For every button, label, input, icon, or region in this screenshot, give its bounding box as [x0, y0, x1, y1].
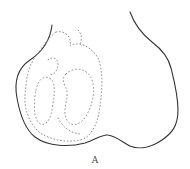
stipple-top-right — [78, 30, 81, 44]
stipple-inner-left — [34, 77, 54, 124]
stipple-inner-center — [48, 58, 58, 74]
stipple-inner-right — [63, 69, 93, 124]
diagram-figure — [0, 0, 190, 169]
outline-drawing — [0, 0, 190, 169]
figure-label: A — [0, 155, 190, 165]
stipple-inner-bottom — [58, 118, 82, 134]
